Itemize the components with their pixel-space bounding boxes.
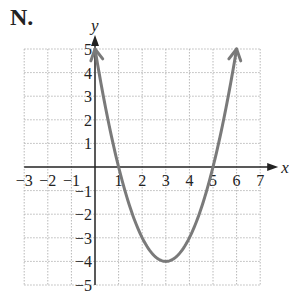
x-axis-arrow-icon [267, 163, 278, 171]
y-tick-label: −5 [75, 277, 92, 294]
y-tick-label: 5 [84, 41, 92, 58]
x-tick-label: 2 [138, 172, 146, 189]
x-tick-label: 4 [185, 172, 193, 189]
x-tick-label: −2 [39, 172, 56, 189]
x-tick-label: 6 [233, 172, 241, 189]
x-tick-label: −3 [16, 172, 33, 189]
y-tick-label: 4 [84, 65, 92, 82]
y-tick-label: 2 [84, 112, 92, 129]
y-tick-label: −1 [75, 183, 92, 200]
y-tick-label: 3 [84, 88, 92, 105]
y-tick-label: 1 [84, 135, 92, 152]
y-tick-label: −2 [75, 206, 92, 223]
x-tick-label: 7 [256, 172, 264, 189]
y-axis-arrow-icon [91, 35, 99, 46]
parabola-chart: xy−3−2−1123456754321−1−2−3−4−5 [0, 0, 289, 306]
y-axis-label: y [89, 16, 99, 35]
y-tick-label: −3 [75, 230, 92, 247]
x-tick-label: 3 [162, 172, 170, 189]
x-axis-label: x [280, 158, 289, 177]
y-tick-label: −4 [75, 253, 92, 270]
